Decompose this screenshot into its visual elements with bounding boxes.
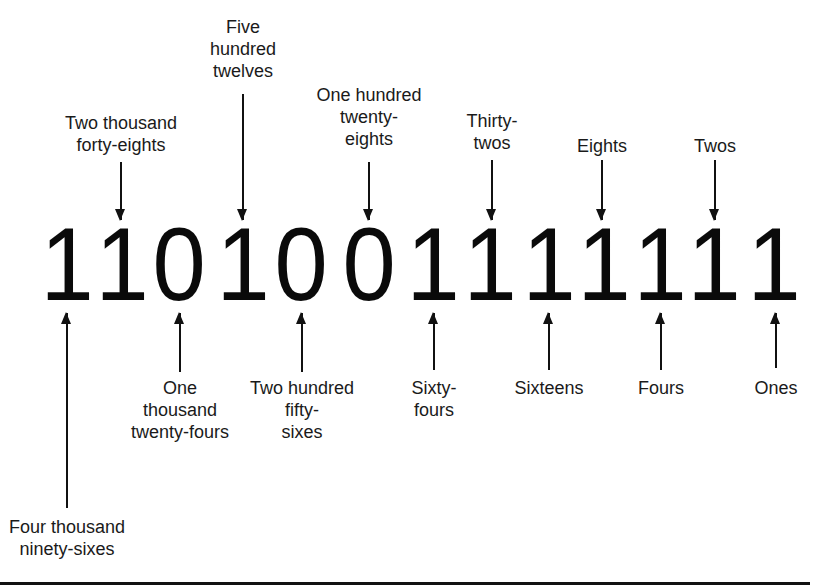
place-value-label: Eights <box>577 135 627 157</box>
arrow-up-icon <box>660 313 661 370</box>
place-value-label: Two thousand forty-eights <box>65 112 177 156</box>
binary-digit: 1 <box>632 212 687 316</box>
binary-digit: 1 <box>94 212 149 316</box>
binary-digit: 1 <box>686 212 741 316</box>
arrow-up-icon <box>179 313 180 372</box>
place-value-label: Fours <box>638 377 684 399</box>
binary-digit: 1 <box>521 212 576 316</box>
place-value-label: Four thousand ninety-sixes <box>9 516 125 560</box>
binary-digit: 1 <box>576 212 631 316</box>
binary-digit: 1 <box>462 212 517 316</box>
bottom-rule <box>0 582 810 585</box>
place-value-label: Thirty- twos <box>467 110 518 154</box>
binary-digit: 0 <box>341 212 396 316</box>
binary-digit: 1 <box>215 212 270 316</box>
binary-digit: 0 <box>151 212 206 316</box>
arrow-down-icon <box>242 94 243 220</box>
arrow-down-icon <box>368 162 369 220</box>
binary-digit: 1 <box>39 212 94 316</box>
binary-digit: 1 <box>405 212 460 316</box>
arrow-up-icon <box>301 313 302 372</box>
place-value-label: Five hundred twelves <box>210 16 276 82</box>
binary-digit: 1 <box>746 212 801 316</box>
arrow-down-icon <box>120 162 121 220</box>
place-value-label: Two hundred fifty- sixes <box>250 377 354 443</box>
arrow-up-icon <box>548 313 549 370</box>
arrow-up-icon <box>66 313 67 508</box>
arrow-down-icon <box>491 160 492 220</box>
place-value-label: One hundred twenty- eights <box>316 84 421 150</box>
arrow-up-icon <box>775 313 776 368</box>
binary-digit: 0 <box>273 212 328 316</box>
arrow-down-icon <box>601 160 602 220</box>
place-value-label: Sixteens <box>514 377 583 399</box>
arrow-down-icon <box>714 160 715 220</box>
place-value-label: Ones <box>754 377 797 399</box>
place-value-label: Sixty- fours <box>412 377 457 421</box>
place-value-label: One thousand twenty-fours <box>131 377 229 443</box>
arrow-up-icon <box>433 313 434 370</box>
place-value-label: Twos <box>694 135 736 157</box>
